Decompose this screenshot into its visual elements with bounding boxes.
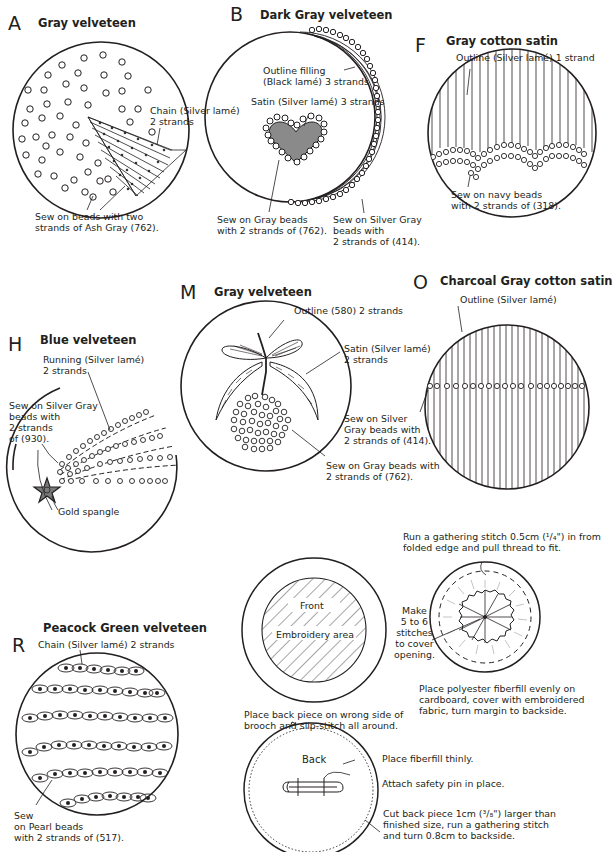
panel-a-fabric: Gray velveteen (38, 18, 136, 30)
panel-r-beads-label: Sew on Pearl beads with 2 strands of (51… (14, 810, 124, 843)
back-piece-note: Place back piece on wrong side of brooch… (244, 709, 403, 731)
panel-m-letter: M (180, 283, 196, 302)
panel-f-beads-label: Sew on navy beads with 2 strands of (318… (451, 189, 561, 211)
panel-h-running-label: Running (Silver lamé) 2 strands (43, 354, 144, 376)
panel-r-letter: R (12, 636, 25, 655)
panel-r-fabric: Peacock Green velveteen (43, 623, 207, 635)
panel-h-beads-label: Sew on Silver Gray beads with 2 strands … (9, 400, 98, 444)
panel-a-letter: A (8, 14, 21, 33)
back-piece-drawing (244, 722, 380, 852)
panel-a-beads-label: Sew on beads with two strands of Ash Gra… (35, 211, 159, 233)
panel-h-letter: H (8, 335, 22, 354)
panel-m-gray-beads-label: Sew on Gray beads with 2 strands of (762… (326, 460, 440, 482)
fiberfill-thin-note: Place fiberfill thinly. (382, 753, 473, 764)
panel-o-fabric: Charcoal Gray cotton satin (440, 276, 613, 288)
gathering-stitch-drawing (430, 562, 540, 672)
panel-a-chain-label: Chain (Silver lamé) 2 strands (150, 105, 240, 127)
panel-b-letter: B (230, 5, 243, 24)
panel-b-silver-beads-label: Sew on Silver Gray beads with 2 strands … (333, 214, 422, 247)
panel-b-fabric: Dark Gray velveteen (260, 10, 392, 22)
panel-m-satin-label: Satin (Silver lamé) 2 strands (344, 343, 431, 365)
panel-h-fabric: Blue velveteen (40, 335, 137, 347)
panel-m-silver-beads-label: Sew on Silver Gray beads with 2 strands … (344, 413, 431, 446)
embroidery-area-label: Embroidery area (276, 629, 354, 640)
panel-r-chain-label: Chain (Silver lamé) 2 strands (38, 639, 175, 650)
panel-b-gray-beads-label: Sew on Gray beads with 2 strands of (762… (217, 214, 327, 236)
cut-back-note: Cut back piece 1cm (³/₈") larger than fi… (383, 808, 556, 841)
panel-h-drawing (7, 372, 180, 552)
panel-m-fabric: Gray velveteen (214, 287, 312, 299)
panel-f-letter: F (415, 36, 426, 55)
panel-o-outline-label: Outline (Silver lamé) (460, 294, 557, 305)
panel-b-outline-filling-label: Outline filling (Black lamé) 3 strands (263, 65, 369, 87)
panel-r-drawing (16, 650, 178, 815)
panel-m-outline-label: Outline (580) 2 strands (294, 305, 403, 316)
panel-o-drawing (420, 306, 589, 495)
panel-a-drawing (13, 42, 189, 218)
gathering-stitch-note: Run a gathering stitch 0.5cm (¹/₄") in f… (403, 531, 601, 553)
panel-o-letter: O (413, 273, 428, 292)
panel-m-drawing (181, 301, 351, 471)
panel-b-satin-label: Satin (Silver lamé) 3 strands (251, 96, 385, 107)
panel-h-spangle-label: Gold spangle (58, 506, 119, 517)
fiberfill-note: Place polyester fiberfill evenly on card… (419, 683, 584, 716)
safety-pin-note: Attach safety pin in place. (382, 778, 505, 789)
panel-f-fabric: Gray cotton satin (446, 36, 558, 48)
make-stitches-note: Make 5 to 6 stitches to cover opening. (394, 605, 435, 660)
back-label: Back (302, 754, 326, 765)
front-label: Front (300, 600, 324, 611)
panel-f-outline-label: Outline (Silver lamé) 1 strand (456, 52, 595, 63)
